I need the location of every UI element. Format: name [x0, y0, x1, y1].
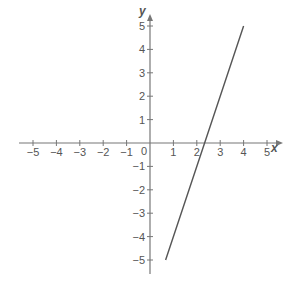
x-tick-label: −1: [120, 146, 133, 158]
y-tick-label: 3: [139, 67, 145, 79]
y-tick-label: −4: [132, 231, 145, 243]
y-axis-label: y: [138, 4, 147, 18]
x-tick-label: −5: [27, 146, 40, 158]
coordinate-plane: −5−4−3−2−112345−5−4−3−2−112345 x y 0: [0, 0, 294, 288]
y-tick-label: 2: [139, 90, 145, 102]
origin-label: 0: [141, 145, 147, 157]
x-tick-label: 5: [264, 146, 270, 158]
y-tick-label: 4: [139, 43, 145, 55]
chart: −5−4−3−2−112345−5−4−3−2−112345 x y 0: [0, 0, 294, 288]
x-axis-label: x: [270, 141, 279, 155]
x-tick-label: −3: [74, 146, 87, 158]
y-tick-label: −2: [132, 184, 145, 196]
x-tick-label: −2: [97, 146, 110, 158]
y-axis-arrow-icon: [147, 14, 153, 21]
y-tick-label: 1: [139, 114, 145, 126]
x-tick-label: 1: [170, 146, 176, 158]
y-tick-label: −3: [132, 207, 145, 219]
x-tick-label: 3: [217, 146, 223, 158]
x-tick-label: 2: [194, 146, 200, 158]
x-tick-label: −4: [50, 146, 63, 158]
x-tick-label: 4: [241, 146, 247, 158]
y-tick-label: 5: [139, 20, 145, 32]
y-tick-label: −1: [132, 160, 145, 172]
y-tick-label: −5: [132, 254, 145, 266]
